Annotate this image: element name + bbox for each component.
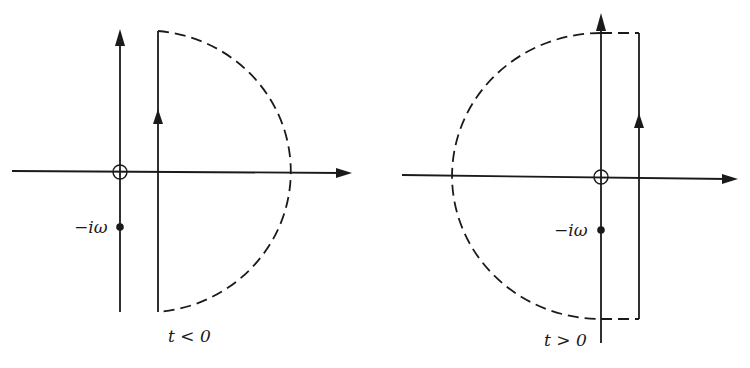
real-axis-left [12, 171, 342, 173]
real-axis-arrow-icon [336, 168, 352, 178]
panel-left: −iω t < 0 [12, 29, 352, 346]
contour-arrow-icon [153, 109, 163, 124]
imag-axis-arrow-icon [115, 29, 125, 46]
real-axis-arrow-icon [722, 174, 738, 184]
pole-dot-icon [597, 226, 605, 234]
pole-label-right: −iω [554, 220, 588, 240]
pole-dot-icon [116, 223, 124, 231]
contour-diagram: −iω t < 0 −iω [0, 0, 750, 368]
real-axis-right [402, 175, 728, 179]
caption-left: t < 0 [168, 326, 211, 346]
panel-right: −iω t > 0 [402, 13, 738, 350]
pole-label-left: −iω [74, 217, 108, 237]
caption-right: t > 0 [544, 330, 587, 350]
imag-axis-arrow-icon [596, 13, 606, 31]
contour-arrow-icon [634, 113, 644, 128]
